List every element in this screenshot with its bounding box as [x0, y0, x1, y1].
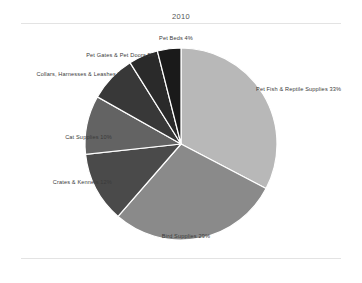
pie-chart — [0, 0, 362, 283]
pie-label-cat-supplies: Cat Supplies 10% — [8, 135, 112, 141]
pie-label-bird-supplies: Bird Supplies 29% — [146, 234, 226, 240]
pie-label-collars-harnesses-leashes: Collars, Harnesses & Leashes 8% — [4, 72, 126, 78]
bottom-divider-rule — [21, 258, 341, 259]
pie-chart-svg — [0, 0, 362, 283]
pie-label-pet-fish-reptile-supplies: Pet Fish & Reptile Supplies 33% — [256, 87, 341, 93]
pie-label-pet-gates-pet-doors: Pet Gates & Pet Doors 5% — [40, 53, 156, 59]
pie-label-pet-beds: Pet Beds 4% — [140, 36, 212, 42]
chart-page: 2010 Pet Fish & Reptile Supplies 33% Bir… — [0, 0, 362, 283]
pie-label-crates-kennels: Crates & Kennels 12% — [8, 180, 112, 186]
